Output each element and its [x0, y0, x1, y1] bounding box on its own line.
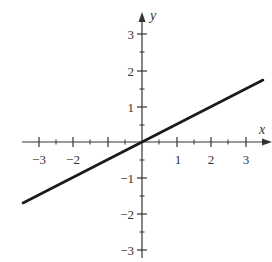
y-tick-label: −1	[120, 171, 134, 186]
y-axis-arrow-icon	[139, 12, 146, 22]
x-tick-label: −2	[66, 152, 80, 167]
x-tick-label: −3	[32, 152, 46, 167]
y-tick-label: 2	[128, 64, 135, 79]
x-axis-arrow-icon	[262, 139, 272, 146]
coordinate-plane: −3 −2 1 2 3 3 2 1 −1 −2 −3 x y	[0, 0, 272, 262]
x-tick-label: 2	[208, 152, 215, 167]
y-tick-label: −3	[120, 243, 134, 258]
y-tick-label: 1	[128, 100, 135, 115]
x-axis-label: x	[258, 122, 266, 137]
y-tick-label: 3	[128, 27, 135, 42]
y-axis-label: y	[148, 8, 157, 23]
y-tick-label: −2	[120, 207, 134, 222]
x-tick-label: 3	[243, 152, 250, 167]
x-tick-label: 1	[175, 152, 182, 167]
